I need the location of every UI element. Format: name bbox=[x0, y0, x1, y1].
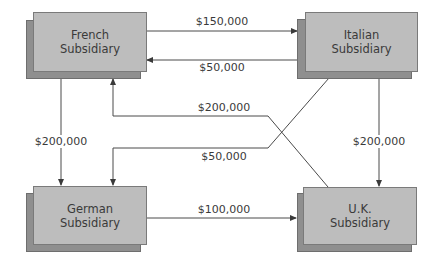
box-front: French Subsidiary bbox=[33, 12, 147, 72]
edge-label-uk-to-french: $200,000 bbox=[197, 101, 252, 114]
edge-label-italian-to-french: $50,000 bbox=[198, 61, 246, 74]
edge-italian-to-german bbox=[113, 78, 329, 185]
box-front: German Subsidiary bbox=[33, 186, 147, 245]
edge-uk-to-french bbox=[113, 79, 328, 187]
node-label-line2: Subsidiary bbox=[330, 216, 390, 230]
edge-label-german-to-uk: $100,000 bbox=[197, 203, 252, 216]
node-label-line2: Subsidiary bbox=[60, 42, 120, 56]
node-label-line1: German bbox=[60, 202, 120, 216]
node-label-line2: Subsidiary bbox=[331, 42, 391, 56]
edge-label-italian-to-uk: $200,000 bbox=[352, 135, 407, 148]
box-front: Italian Subsidiary bbox=[305, 12, 418, 72]
edge-label-italian-to-german: $50,000 bbox=[200, 150, 248, 163]
node-label-line2: Subsidiary bbox=[60, 216, 120, 230]
box-front: U.K. Subsidiary bbox=[303, 187, 417, 245]
edge-label-french-to-german: $200,000 bbox=[34, 135, 89, 148]
edge-label-french-to-italian: $150,000 bbox=[195, 15, 250, 28]
node-label-line1: French bbox=[60, 28, 120, 42]
node-label-line1: U.K. bbox=[330, 202, 390, 216]
node-label-line1: Italian bbox=[331, 28, 391, 42]
